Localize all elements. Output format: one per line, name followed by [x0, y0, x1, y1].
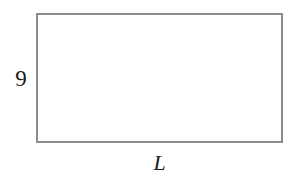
height-label: 9 — [11, 67, 31, 90]
length-label: L — [140, 152, 180, 174]
geometry-figure-canvas: 9 L — [0, 0, 300, 179]
rectangle-shape — [37, 14, 282, 142]
